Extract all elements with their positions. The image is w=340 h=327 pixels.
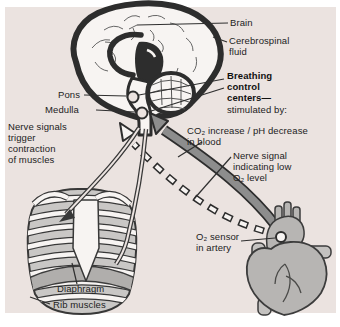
pons-marker bbox=[128, 92, 139, 103]
figure-canvas: Brain Cerebrospinal fluid Pons Medulla B… bbox=[0, 0, 340, 327]
o2-sensor-label: O₂ sensor in artery bbox=[196, 231, 239, 253]
nerve-signal-low-o2-label: Nerve signal indicating low O₂ level bbox=[233, 150, 291, 183]
breathing-control-centers-label: Breathing control centers— bbox=[227, 70, 272, 103]
rib-muscles-label: Rib muscles bbox=[53, 299, 106, 310]
brainstem bbox=[128, 78, 151, 135]
diaphragm-label: Diaphragm bbox=[57, 283, 104, 294]
nerve-signals-label: Nerve signals trigger contraction of mus… bbox=[8, 121, 67, 165]
o2-sensor-marker bbox=[276, 232, 286, 242]
heart-illustration bbox=[247, 202, 331, 315]
stimulated-by-label: stimulated by: bbox=[227, 104, 287, 115]
cerebrospinal-fluid-label: Cerebrospinal fluid bbox=[229, 35, 289, 57]
medulla-label: Medulla bbox=[45, 104, 79, 115]
medulla-marker bbox=[137, 108, 148, 119]
pons-label: Pons bbox=[58, 89, 80, 100]
brain-label: Brain bbox=[230, 17, 253, 28]
co2-increase-label: CO₂ increase / pH decrease in blood bbox=[187, 125, 308, 147]
